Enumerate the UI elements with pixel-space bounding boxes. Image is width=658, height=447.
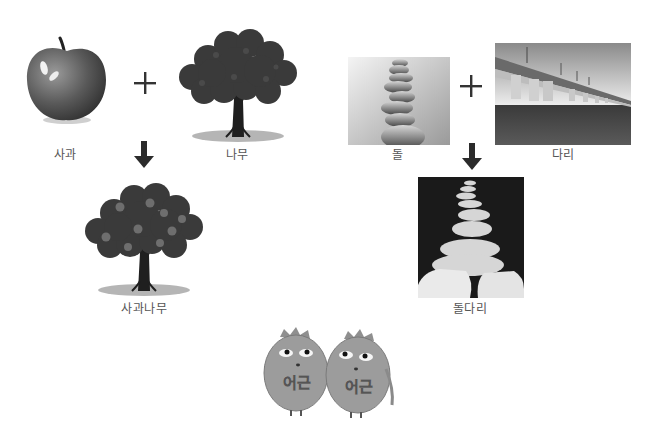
word-label-apple: 사과 [5, 148, 125, 162]
root-character-text: 어근 [322, 375, 396, 396]
word-label-tree: 나무 [177, 148, 297, 162]
stacked-stones-photo [348, 57, 450, 145]
tree-icon [176, 29, 300, 145]
root-character-right: 어근 [322, 329, 396, 419]
word-label-bridge: 다리 [503, 148, 623, 162]
apple-tree-icon [84, 183, 206, 299]
down-arrow-icon [461, 143, 483, 171]
word-label-stepping-stone-bridge: 돌다리 [410, 302, 530, 316]
bridge-photo [495, 43, 631, 145]
plus-icon [133, 71, 157, 95]
apple-icon [24, 36, 110, 126]
down-arrow-icon [133, 141, 155, 169]
word-label-apple-tree: 사과나무 [84, 302, 204, 316]
plus-icon [459, 74, 483, 98]
stepping-stones-photo [418, 177, 524, 298]
word-label-stone: 돌 [338, 148, 458, 162]
